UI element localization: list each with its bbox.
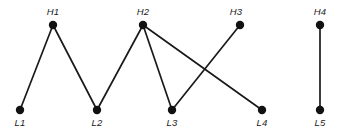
graph-node xyxy=(236,21,244,29)
graph-node-label: L1 xyxy=(15,117,26,128)
graph-edge xyxy=(53,25,97,110)
graph-edge xyxy=(143,25,262,110)
graph-node-label: L2 xyxy=(92,117,103,128)
graph-canvas: H1H2H3H4L1L2L3L4L5 xyxy=(0,0,348,133)
graph-edge xyxy=(143,25,172,110)
graph-node-label: L3 xyxy=(167,117,178,128)
graph-node xyxy=(316,21,324,29)
graph-edge xyxy=(20,25,53,110)
node-layer xyxy=(16,21,324,114)
graph-node xyxy=(93,106,101,114)
edge-layer xyxy=(20,25,320,110)
graph-node-label: H1 xyxy=(47,6,60,17)
graph-node-label: L4 xyxy=(257,117,268,128)
graph-node-label: H3 xyxy=(230,6,243,17)
graph-node xyxy=(258,106,266,114)
graph-node-label: L5 xyxy=(315,117,326,128)
graph-node xyxy=(139,21,147,29)
graph-edge xyxy=(97,25,143,110)
graph-node xyxy=(49,21,57,29)
graph-node xyxy=(316,106,324,114)
graph-edge xyxy=(172,25,240,110)
graph-node xyxy=(16,106,24,114)
graph-node-label: H2 xyxy=(137,6,150,17)
graph-node xyxy=(168,106,176,114)
graph-figure: H1H2H3H4L1L2L3L4L5 xyxy=(0,0,348,133)
graph-node-label: H4 xyxy=(314,6,327,17)
